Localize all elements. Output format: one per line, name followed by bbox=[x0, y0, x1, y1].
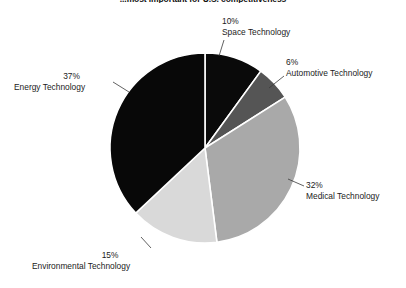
pie-graphic bbox=[0, 0, 406, 288]
slice-value-environmental: 15% bbox=[90, 250, 130, 261]
slice-name-energy: Energy Technology bbox=[14, 82, 85, 93]
slice-name-space: Space Technology bbox=[222, 27, 290, 38]
leader-line-environmental bbox=[141, 237, 151, 248]
slice-label-space: 10% Space Technology bbox=[222, 16, 290, 38]
slice-label-medical: 32% Medical Technology bbox=[306, 180, 379, 202]
leader-line-energy bbox=[113, 82, 129, 92]
slice-label-energy: 37% Energy Technology bbox=[14, 71, 85, 93]
slice-value-automotive: 6% bbox=[286, 57, 372, 68]
slice-name-medical: Medical Technology bbox=[306, 191, 379, 202]
pie-slice-group bbox=[110, 53, 300, 243]
slice-name-environmental: Environmental Technology bbox=[32, 261, 130, 272]
slice-label-automotive: 6% Automotive Technology bbox=[286, 57, 372, 79]
slice-label-environmental: 15% Environmental Technology bbox=[32, 250, 130, 272]
pie-chart: ...most important for U.S. competitivene… bbox=[0, 0, 406, 288]
slice-value-space: 10% bbox=[222, 16, 290, 27]
slice-name-automotive: Automotive Technology bbox=[286, 68, 372, 79]
slice-value-energy: 37% bbox=[58, 71, 85, 82]
slice-value-medical: 32% bbox=[306, 180, 379, 191]
